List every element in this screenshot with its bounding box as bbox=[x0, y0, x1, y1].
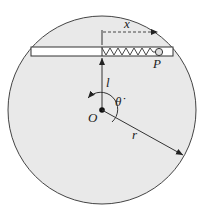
rotating-disk-diagram: x P l θ̇ O r bbox=[0, 0, 205, 213]
label-o: O bbox=[88, 110, 98, 125]
mass-p bbox=[155, 48, 162, 55]
label-p: P bbox=[152, 56, 161, 71]
label-x: x bbox=[123, 16, 130, 31]
label-l: l bbox=[106, 75, 110, 90]
